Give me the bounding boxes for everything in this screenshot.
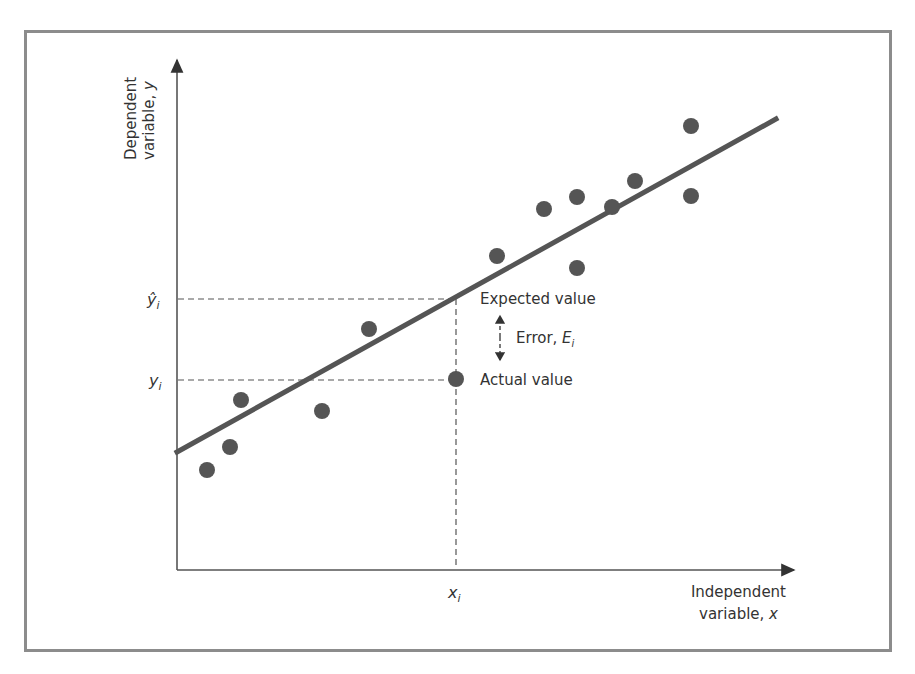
data-point xyxy=(361,321,377,337)
x-tick-label: xi xyxy=(447,583,461,605)
data-point xyxy=(683,188,699,204)
data-point xyxy=(314,403,330,419)
data-point xyxy=(199,462,215,478)
svg-text:variable, y: variable, y xyxy=(140,80,158,160)
data-point xyxy=(569,260,585,276)
data-point xyxy=(489,248,505,264)
data-point xyxy=(683,118,699,134)
y-axis-title: Dependent variable, y xyxy=(122,77,158,160)
data-point xyxy=(569,189,585,205)
y-tick-label: yi xyxy=(148,371,162,393)
data-point xyxy=(448,371,464,387)
actual-value-label: Actual value xyxy=(480,371,573,389)
data-point xyxy=(627,173,643,189)
regression-diagram: Expected value Error, Ei Actual value ŷi… xyxy=(0,0,915,674)
regression-line xyxy=(177,119,776,452)
x-axis-title-line1: Independent xyxy=(691,583,786,601)
data-point xyxy=(233,392,249,408)
x-axis-title-line2: variable, x xyxy=(699,605,778,623)
svg-text:Dependent: Dependent xyxy=(122,77,140,160)
expected-value-label: Expected value xyxy=(480,290,596,308)
data-point xyxy=(536,201,552,217)
y-hat-tick-label: ŷi xyxy=(146,290,160,312)
data-point xyxy=(222,439,238,455)
data-point xyxy=(604,199,620,215)
error-label: Error, Ei xyxy=(516,329,575,349)
